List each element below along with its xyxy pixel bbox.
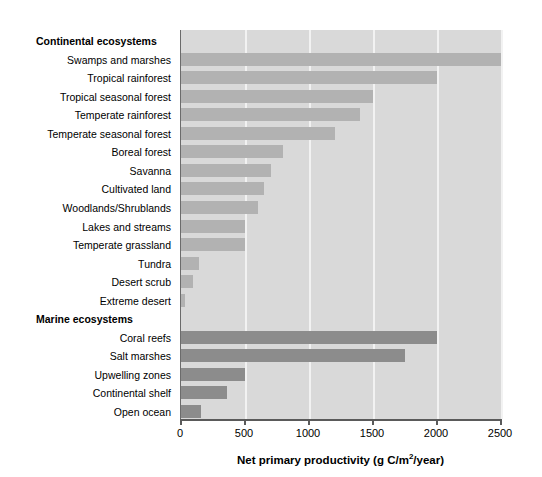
- bar: [181, 164, 271, 177]
- x-tick-label: 2500: [488, 427, 512, 439]
- x-tick-label: 1500: [360, 427, 384, 439]
- x-tick-label: 1000: [296, 427, 320, 439]
- bar: [181, 127, 335, 140]
- category-label: Extreme desert: [0, 294, 175, 308]
- category-label: Desert scrub: [0, 275, 175, 289]
- bar: [181, 331, 437, 344]
- bar: [181, 294, 185, 307]
- bar: [181, 90, 373, 103]
- bar-chart: Continental ecosystemsSwamps and marshes…: [0, 0, 542, 477]
- category-label: Boreal forest: [0, 145, 175, 159]
- x-axis-line: [180, 419, 501, 421]
- category-label: Swamps and marshes: [0, 53, 175, 67]
- group-header-label: Marine ecosystems: [0, 312, 175, 326]
- x-tick-2500: [500, 419, 502, 425]
- x-tick-1500: [372, 419, 374, 425]
- bar: [181, 405, 201, 418]
- category-label: Temperate rainforest: [0, 108, 175, 122]
- bar: [181, 145, 283, 158]
- bar: [181, 220, 245, 233]
- bar: [181, 201, 258, 214]
- category-label: Cultivated land: [0, 182, 175, 196]
- category-label: Tundra: [0, 257, 175, 271]
- category-label: Upwelling zones: [0, 368, 175, 382]
- plot-area: [180, 30, 501, 419]
- category-label: Temperate seasonal forest: [0, 127, 175, 141]
- x-tick-label: 500: [235, 427, 253, 439]
- bar: [181, 257, 199, 270]
- bar: [181, 108, 360, 121]
- category-label: Tropical seasonal forest: [0, 90, 175, 104]
- gridline-2500: [501, 30, 503, 419]
- x-tick-2000: [436, 419, 438, 425]
- x-tick-label: 2000: [424, 427, 448, 439]
- bar: [181, 53, 501, 66]
- bar: [181, 275, 193, 288]
- bar: [181, 349, 405, 362]
- bar: [181, 71, 437, 84]
- bar: [181, 238, 245, 251]
- x-tick-1000: [308, 419, 310, 425]
- x-axis-title: Net primary productivity (g C/m2/year): [180, 452, 501, 466]
- category-label: Continental shelf: [0, 386, 175, 400]
- x-axis-title-prefix: Net primary productivity (g C/m: [237, 454, 409, 466]
- group-header-label: Continental ecosystems: [0, 34, 175, 48]
- bar: [181, 368, 245, 381]
- x-tick-0: [180, 419, 182, 425]
- category-label: Tropical rainforest: [0, 71, 175, 85]
- bar: [181, 386, 227, 399]
- x-tick-label: 0: [177, 427, 183, 439]
- category-label: Woodlands/Shrublands: [0, 201, 175, 215]
- bar: [181, 182, 264, 195]
- category-label: Savanna: [0, 164, 175, 178]
- gridline-2000: [437, 30, 439, 419]
- category-label: Coral reefs: [0, 331, 175, 345]
- x-axis-title-suffix: /year): [413, 454, 444, 466]
- x-tick-500: [244, 419, 246, 425]
- category-label: Lakes and streams: [0, 220, 175, 234]
- category-label: Salt marshes: [0, 349, 175, 363]
- category-label: Open ocean: [0, 405, 175, 419]
- category-label: Temperate grassland: [0, 238, 175, 252]
